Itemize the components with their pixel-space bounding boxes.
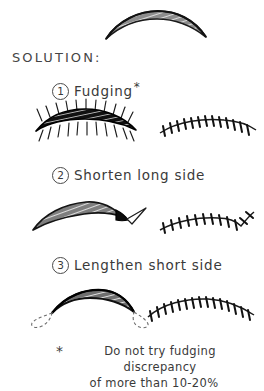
step-2-text: Shorten long side <box>74 167 205 183</box>
step-1-text: Fudging <box>74 83 133 99</box>
footnote-line-1: Do not try fudging discrepancy <box>54 344 254 376</box>
step-3-number: 3 <box>52 257 69 274</box>
footnote: * Do not try fudging discrepancy of more… <box>54 344 254 391</box>
footnote-line-2: of more than 10-20% <box>54 376 254 391</box>
page-title: SOLUTION: <box>12 50 101 65</box>
crescent-with-burow-triangle <box>28 198 156 244</box>
step-1-label: 1Fudging* <box>52 80 141 100</box>
sutured-closure-line-extended <box>146 290 260 330</box>
sutured-closure-line-even <box>156 112 260 144</box>
crescent-with-radiating-suture-marks <box>28 98 146 150</box>
step-2-label: 2Shorten long side <box>52 167 205 184</box>
crescent-with-dashed-extensions <box>28 286 156 336</box>
step-1-footnote-marker: * <box>134 80 141 94</box>
footnote-marker: * <box>56 342 63 361</box>
crescent-excision-unequal-sides <box>100 6 212 48</box>
step-3-text: Lengthen short side <box>74 257 222 273</box>
sutured-closure-line-with-hook <box>156 204 260 244</box>
step-2-number: 2 <box>52 167 69 184</box>
step-3-label: 3Lengthen short side <box>52 257 222 274</box>
